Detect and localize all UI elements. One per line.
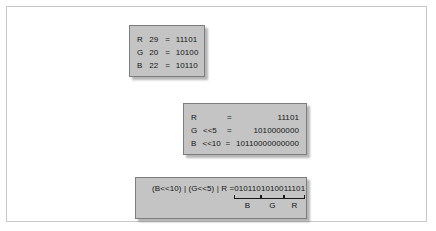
combined-line: (B<<10) | (G<<5) | R = 010110 B 10100 G … [152, 184, 305, 211]
equals-sign: = [165, 36, 175, 44]
group-bracket [284, 195, 306, 199]
table-row: R 29 = 11101 [130, 33, 204, 46]
bit-digits: 11101 [284, 184, 306, 194]
channel-label: B [137, 62, 149, 70]
equals-sign: = [227, 114, 238, 122]
channel-binary: 10110 [176, 62, 204, 70]
bit-digits: 010110 [234, 184, 261, 194]
channel-label: R [137, 36, 149, 44]
channel-label: G [191, 127, 203, 135]
packed-bitstring: 010110 B 10100 G 11101 R [234, 184, 305, 211]
channel-decimal: 29 [149, 36, 165, 44]
group-bracket [234, 195, 261, 199]
channel-binary: 10100 [176, 49, 204, 57]
shifted-binary: 10110000000000 [236, 140, 299, 148]
figure-frame: R 29 = 11101 G 20 = 10100 B 22 = 10110 R [6, 6, 427, 222]
group-label: G [269, 200, 275, 211]
shifted-binary: 11101 [238, 114, 299, 122]
bit-group-r: 11101 R [284, 184, 306, 211]
channel-decimal: 20 [149, 49, 165, 57]
table-row: B <<10 = 10110000000000 [184, 137, 306, 150]
group-label: B [245, 200, 250, 211]
equals-sign: = [225, 140, 236, 148]
shifted-binary: 1010000000 [238, 127, 299, 135]
group-label: R [292, 200, 298, 211]
shifted-values-box: R = 11101 G <<5 = 1010000000 B <<10 = 10… [183, 103, 307, 155]
group-bracket [261, 195, 284, 199]
bit-digits: 10100 [261, 184, 284, 194]
figure-root: R 29 = 11101 G 20 = 10100 B 22 = 10110 R [0, 0, 436, 231]
or-expression: (B<<10) | (G<<5) | R = [152, 185, 234, 193]
bit-group-b: 010110 B [234, 184, 261, 211]
channel-label: B [191, 140, 202, 148]
decimal-to-binary-box: R 29 = 11101 G 20 = 10100 B 22 = 10110 [129, 25, 205, 77]
channel-label: G [137, 49, 149, 57]
table-row: R = 11101 [184, 111, 306, 124]
bit-group-g: 10100 G [261, 184, 284, 211]
equals-sign: = [165, 49, 175, 57]
channel-decimal: 22 [149, 62, 165, 70]
equals-sign: = [227, 127, 238, 135]
channel-binary: 11101 [176, 36, 204, 44]
equals-sign: = [165, 62, 175, 70]
shift-operator: <<5 [203, 127, 227, 135]
table-row: G <<5 = 1010000000 [184, 124, 306, 137]
channel-label: R [191, 114, 203, 122]
combined-expression-box: (B<<10) | (G<<5) | R = 010110 B 10100 G … [135, 177, 307, 219]
table-row: G 20 = 10100 [130, 46, 204, 59]
table-row: B 22 = 10110 [130, 59, 204, 72]
shift-operator: <<10 [202, 140, 225, 148]
